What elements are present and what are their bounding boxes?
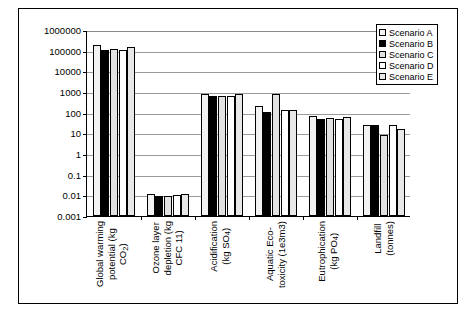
bar-group <box>141 31 195 216</box>
y-axis-label: 1000 <box>60 88 81 98</box>
bar <box>235 94 243 216</box>
x-axis-label: Ozone layer depletion (kg CFC 11) <box>140 221 194 305</box>
x-axis-label-text: Ozone layer depletion (kg CFC 11) <box>150 221 185 275</box>
bar <box>93 45 101 216</box>
legend-swatch <box>379 40 386 47</box>
bar <box>227 96 235 216</box>
y-axis-tick <box>83 217 87 218</box>
y-axis-label: 0.1 <box>68 171 81 181</box>
legend-item: Scenario A <box>379 27 434 38</box>
y-axis-label: 100 <box>65 109 81 119</box>
x-axis-tick <box>141 216 142 220</box>
y-axis-label: 0.001 <box>57 212 81 222</box>
bar <box>181 194 189 216</box>
bar <box>173 195 181 216</box>
legend-item: Scenario C <box>379 49 434 60</box>
bar-group <box>249 31 303 216</box>
x-axis-label-text: Aquatic Eco- toxicity (1e3m3) <box>264 221 287 288</box>
bar <box>326 118 334 216</box>
x-axis-tick <box>249 216 250 220</box>
bar <box>397 129 405 216</box>
legend-label: Scenario E <box>389 72 433 82</box>
x-axis-label: Global warming potential (kg CO2) <box>86 221 140 305</box>
bar <box>309 116 317 216</box>
x-axis-label: Acidification (kg SO4) <box>194 221 248 305</box>
legend-item: Scenario D <box>379 60 434 71</box>
bar <box>363 125 371 216</box>
y-axis-label: 1 <box>76 150 81 160</box>
bar <box>218 96 226 216</box>
y-axis-label: 1000000 <box>44 26 81 36</box>
bar <box>281 110 289 216</box>
bar <box>289 110 297 216</box>
y-axis-label: 0.01 <box>63 192 82 202</box>
bar <box>110 49 118 216</box>
x-axis-label-text: Global warming potential (kg CO2) <box>94 221 131 287</box>
plot-area: 10000001000001000010001001010.10.010.001 <box>86 31 410 217</box>
bar <box>272 94 280 216</box>
x-axis-tick <box>357 216 358 220</box>
bar <box>255 106 263 216</box>
x-axis-label-text: Acidification (kg SO4) <box>208 221 234 272</box>
legend-item: Scenario B <box>379 38 434 49</box>
legend-swatch <box>379 29 386 36</box>
bar <box>317 119 325 216</box>
x-axis-label: Eutrophication (kg PO4) <box>302 221 356 305</box>
x-axis-label-text: Landfill (tonnes) <box>372 221 395 256</box>
bar <box>155 196 163 216</box>
subscript: 4 <box>223 231 232 235</box>
y-axis-label: 10 <box>70 130 81 140</box>
legend-item: Scenario E <box>379 71 434 82</box>
x-axis-tick <box>195 216 196 220</box>
bar <box>201 94 209 216</box>
bar-group <box>87 31 141 216</box>
bar <box>335 119 343 216</box>
y-axis-label: 10000 <box>55 68 81 78</box>
bar <box>164 196 172 216</box>
bar <box>127 47 135 216</box>
subscript: 4 <box>331 236 340 240</box>
legend-label: Scenario B <box>389 39 433 49</box>
bar <box>263 112 271 216</box>
subscript: 2 <box>121 246 130 250</box>
bar-group <box>303 31 357 216</box>
bar-group <box>195 31 249 216</box>
legend-label: Scenario A <box>389 28 433 38</box>
chart-frame: 10000001000001000010001001010.10.010.001… <box>18 8 458 304</box>
legend-label: Scenario D <box>389 61 434 71</box>
y-axis-label: 100000 <box>49 47 81 57</box>
bar <box>380 135 388 216</box>
chart-legend: Scenario AScenario BScenario CScenario D… <box>376 24 438 85</box>
x-axis-tick <box>303 216 304 220</box>
legend-label: Scenario C <box>389 50 434 60</box>
legend-swatch <box>379 62 386 69</box>
bar <box>147 194 155 216</box>
x-axis-label: Aquatic Eco- toxicity (1e3m3) <box>248 221 302 305</box>
bar <box>119 50 127 216</box>
legend-swatch <box>379 73 386 80</box>
bar <box>209 96 217 216</box>
bar <box>343 117 351 216</box>
bar <box>389 125 397 216</box>
x-axis-label-text: Eutrophication (kg PO4) <box>316 221 342 282</box>
legend-swatch <box>379 51 386 58</box>
x-axis-label: Landfill (tonnes) <box>356 221 410 305</box>
bar <box>101 50 109 216</box>
bar <box>371 125 379 216</box>
